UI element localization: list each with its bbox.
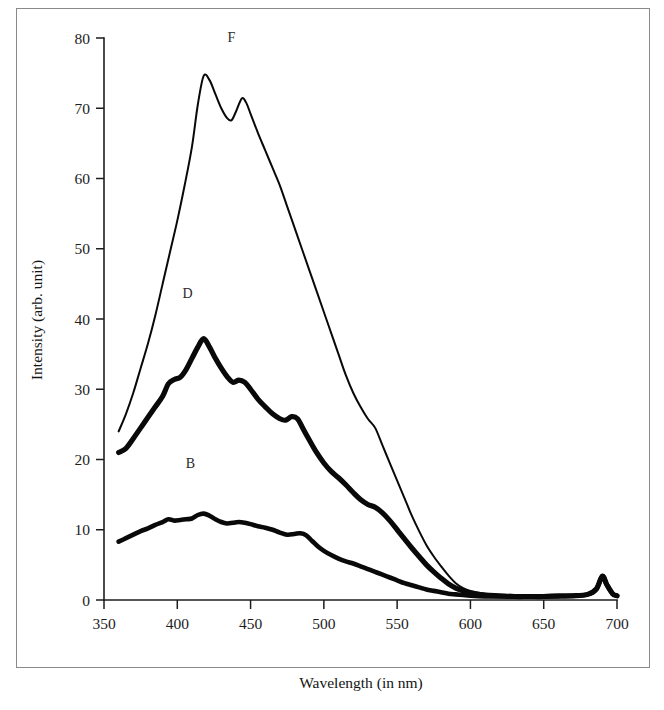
y-tick-label: 20 [75,451,91,468]
y-axis-title: Intensity (arb. unit) [28,260,46,380]
curve-b [119,514,617,597]
series-label-d: D [182,286,192,301]
y-tick-label: 70 [75,100,91,117]
y-tick-label: 40 [75,311,91,328]
spectrum-chart: 01020304050607080 3504004505005506006507… [0,0,664,710]
x-tick-label: 400 [166,615,190,632]
y-tick-label: 0 [82,592,90,609]
series-label-f: F [228,30,236,45]
series-label-b: B [186,456,195,471]
x-axis-title: Wavelength (in nm) [299,674,423,692]
y-axis-ticks: 01020304050607080 [75,30,105,609]
x-tick-label: 600 [459,615,483,632]
x-tick-label: 700 [605,615,629,632]
x-tick-label: 350 [92,615,116,632]
series-annotations: FDB [182,30,235,471]
data-curves [119,74,617,596]
x-tick-label: 500 [312,615,336,632]
y-tick-label: 80 [75,30,91,47]
y-tick-label: 50 [75,240,91,257]
chart-container: 01020304050607080 3504004505005506006507… [0,0,664,710]
x-axis-ticks: 350400450500550600650700 [92,600,629,632]
y-tick-label: 10 [75,521,91,538]
y-tick-label: 30 [75,381,91,398]
x-tick-label: 450 [239,615,263,632]
y-tick-label: 60 [75,170,91,187]
x-tick-label: 650 [532,615,556,632]
x-tick-label: 550 [386,615,410,632]
